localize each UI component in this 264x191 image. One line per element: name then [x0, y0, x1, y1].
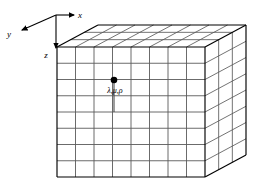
lattice-point-dot	[111, 77, 118, 84]
y-axis-line	[22, 15, 56, 30]
lattice-figure: x y z λ,μ,ρ	[0, 0, 264, 191]
lattice-figure-svg: x y z λ,μ,ρ	[0, 0, 264, 191]
z-axis-label: z	[43, 50, 48, 60]
x-axis-label: x	[77, 10, 82, 20]
y-axis-label: y	[6, 29, 11, 39]
lattice-box	[57, 25, 246, 177]
lattice-point-label: λ,μ,ρ	[106, 86, 122, 95]
